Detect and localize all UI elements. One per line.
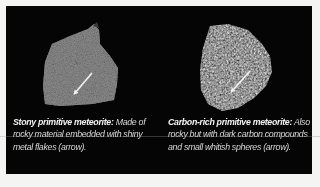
caption-title: Stony primitive meteorite: [13,116,114,127]
carbon-meteorite-shape [200,24,272,111]
meteorite-images [0,0,320,187]
stony-meteorite-image [43,22,118,106]
carbon-rich-meteorite-caption: Carbon-rich primitive meteorite: Also ro… [168,116,312,153]
stony-meteorite-caption: Stony primitive meteorite: Made of rocky… [13,116,160,153]
stony-meteorite-shape [43,24,118,106]
scan-artifact-line [0,136,320,137]
carbon-rich-meteorite-image [200,24,272,111]
caption-title: Carbon-rich primitive meteorite: [168,116,292,127]
figure-page: Stony primitive meteorite: Made of rocky… [0,0,320,187]
